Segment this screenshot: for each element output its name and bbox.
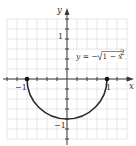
y-axis-arrow-icon — [65, 8, 70, 15]
x-tick-label-neg1: −1 — [15, 83, 27, 92]
eq-equals-minus: = − — [80, 52, 97, 61]
x-axis-label: x — [129, 81, 134, 91]
equation-text: y = − — [75, 52, 98, 61]
eq-superscript: 2 — [120, 48, 125, 57]
x-tick-label-pos1: 1 — [106, 83, 111, 92]
eq-one-minus: 1 − — [103, 52, 119, 61]
y-tick-label-pos1: 1 — [58, 32, 63, 41]
equation-label: y = − 1 − x 2 — [74, 48, 125, 62]
endpoint-left — [25, 77, 30, 82]
y-axis-label: y — [56, 5, 62, 15]
endpoint-right — [105, 77, 110, 82]
semicircle-plot: x y −1 1 1 −1 y = − 1 − x 2 — [0, 0, 136, 146]
y-tick-label-neg1: −1 — [54, 121, 66, 130]
